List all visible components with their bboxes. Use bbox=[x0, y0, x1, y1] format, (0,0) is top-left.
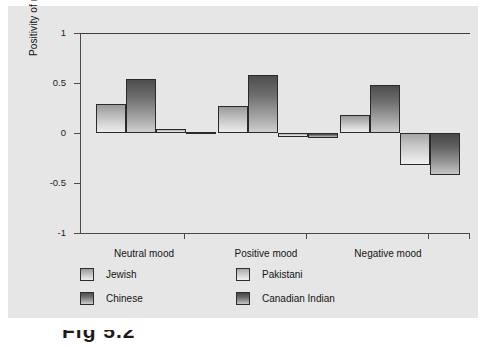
figure-caption: Fig 5.2 bbox=[62, 330, 136, 343]
legend-label-chinese: Chinese bbox=[106, 293, 143, 304]
y-axis-line bbox=[80, 33, 81, 233]
legend-label-pakistani: Pakistani bbox=[262, 269, 303, 280]
x-tick-3 bbox=[428, 233, 429, 239]
bar-positive-chinese[interactable] bbox=[248, 75, 278, 133]
bar-negative-jewish[interactable] bbox=[340, 115, 370, 133]
y-tick-1: 1 bbox=[74, 33, 80, 34]
legend-swatch-canadian-indian-icon bbox=[236, 292, 250, 305]
y-tick-label-1: 1 bbox=[61, 28, 66, 38]
legend-swatch-chinese-icon bbox=[80, 292, 94, 305]
legend-item-canadian-indian[interactable]: Canadian Indian bbox=[236, 292, 335, 305]
chart-panel: Positivity of ratings 1 0.5 0 -0.5 -1 bbox=[8, 6, 478, 318]
legend-item-chinese[interactable]: Chinese bbox=[80, 292, 143, 305]
bar-neutral-pakistani[interactable] bbox=[156, 129, 186, 133]
figure-root: Positivity of ratings 1 0.5 0 -0.5 -1 bbox=[0, 0, 497, 347]
bar-negative-pakistani[interactable] bbox=[400, 133, 430, 165]
zero-baseline bbox=[80, 33, 470, 34]
legend-swatch-jewish-icon bbox=[80, 268, 94, 281]
bar-neutral-jewish[interactable] bbox=[96, 104, 126, 133]
legend-swatch-pakistani-icon bbox=[236, 268, 250, 281]
y-tick-label-0_5: 0.5 bbox=[53, 78, 66, 88]
bar-positive-pakistani[interactable] bbox=[278, 133, 308, 137]
y-tick-neg0_5: -0.5 bbox=[74, 183, 80, 184]
bar-positive-canadian-indian[interactable] bbox=[308, 133, 338, 138]
group-label-negative-mood: Negative mood bbox=[354, 248, 421, 259]
y-tick-neg1: -1 bbox=[74, 233, 80, 234]
group-label-positive-mood: Positive mood bbox=[235, 248, 298, 259]
x-axis-right-cap bbox=[469, 233, 470, 239]
legend-item-jewish[interactable]: Jewish bbox=[80, 268, 137, 281]
bar-positive-jewish[interactable] bbox=[218, 106, 248, 133]
legend-label-canadian-indian: Canadian Indian bbox=[262, 293, 335, 304]
y-tick-0_5: 0.5 bbox=[74, 83, 80, 84]
y-tick-label-neg1: -1 bbox=[58, 228, 66, 238]
y-tick-label-0: 0 bbox=[61, 128, 66, 138]
bar-neutral-chinese[interactable] bbox=[126, 79, 156, 133]
legend-label-jewish: Jewish bbox=[106, 269, 137, 280]
x-tick-2 bbox=[306, 233, 307, 239]
group-label-neutral-mood: Neutral mood bbox=[114, 248, 174, 259]
x-tick-1 bbox=[184, 233, 185, 239]
x-axis-line bbox=[80, 233, 470, 234]
plot-area: 1 0.5 0 -0.5 -1 bbox=[80, 33, 470, 233]
legend-item-pakistani[interactable]: Pakistani bbox=[236, 268, 303, 281]
bar-neutral-canadian-indian[interactable] bbox=[186, 132, 216, 134]
figure-caption-strip: Fig 5.2 bbox=[0, 330, 497, 347]
bar-negative-canadian-indian[interactable] bbox=[430, 133, 460, 175]
y-axis-title: Positivity of ratings bbox=[28, 0, 39, 56]
bar-negative-chinese[interactable] bbox=[370, 85, 400, 133]
y-tick-label-neg0_5: -0.5 bbox=[50, 178, 66, 188]
y-tick-0: 0 bbox=[74, 133, 80, 134]
